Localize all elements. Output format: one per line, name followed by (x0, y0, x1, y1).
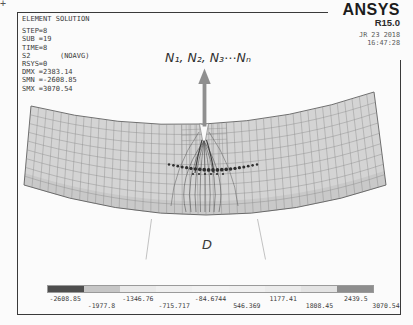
plot-time: 16:47:28 (328, 40, 400, 48)
legend-segment (156, 286, 192, 292)
solution-info-line: STEP=8 (22, 27, 89, 35)
ansys-results-window: + ELEMENT SOLUTIONSTEP=8SUB =19TIME=8S2 … (0, 0, 413, 325)
solution-info-line: TIME=8 (22, 44, 89, 52)
solution-info-line: ELEMENT SOLUTION (22, 15, 89, 23)
load-arrow-icon (198, 69, 210, 127)
stress-legend-bar (47, 285, 374, 293)
solution-info-line: S2 (NOAVG) (22, 52, 89, 60)
solution-info-line: SMN =-2608.85 (22, 76, 89, 84)
solution-info-line: RSYS=0 (22, 60, 89, 68)
solution-info-block: ELEMENT SOLUTIONSTEP=8SUB =19TIME=8S2 (N… (22, 15, 89, 93)
ansys-logo: ANSYS (328, 2, 400, 18)
diameter-annotation: D (202, 237, 212, 252)
legend-segment (84, 286, 120, 292)
legend-segment (229, 286, 265, 292)
legend-segment (265, 286, 301, 292)
load-annotation: N₁, N₂, N₃⋯Nₙ (165, 50, 251, 65)
ansys-logo-block: ANSYS R15.0 JR 23 2018 16:47:28 (328, 2, 404, 60)
legend-segment (48, 286, 84, 292)
legend-segment (337, 286, 373, 292)
solution-info-line: DMX =2383.14 (22, 68, 89, 76)
solution-info-line: SMX =3070.54 (22, 85, 89, 93)
solution-info-line: SUB =19 (22, 35, 89, 43)
legend-segment (192, 286, 228, 292)
legend-segment (301, 286, 337, 292)
legend-segment (120, 286, 156, 292)
ansys-release-label: R15.0 (328, 18, 400, 28)
